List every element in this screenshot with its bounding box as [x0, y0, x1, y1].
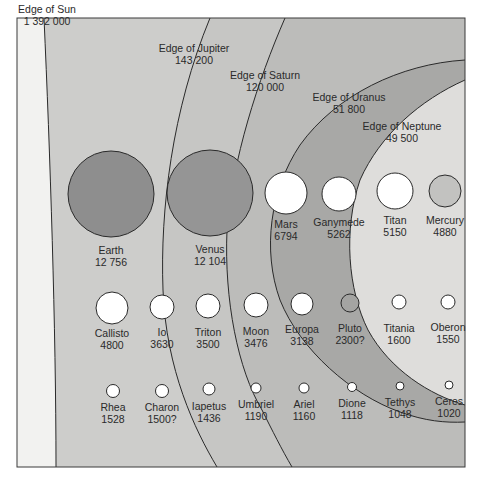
edge-label-value: 120 000 — [246, 81, 284, 93]
body-name: Oberon — [430, 321, 465, 333]
body-diameter: 3500 — [196, 338, 220, 350]
edge-label-title: Edge of Neptune — [363, 120, 442, 132]
ganymede-disk-icon — [322, 177, 356, 211]
body-diameter: 4800 — [100, 339, 124, 351]
body-name: Titan — [384, 214, 407, 226]
body-diameter: 1020 — [437, 407, 461, 419]
body-diameter: 3138 — [290, 335, 314, 347]
edge-label-title: Edge of Sun — [18, 3, 76, 15]
body-diameter: 1436 — [197, 412, 221, 424]
body-name: Earth — [98, 244, 123, 256]
oberon-disk-icon — [441, 295, 455, 309]
body-name: Venus — [195, 243, 224, 255]
size-comparison-diagram: Edge of Sun1 392 000Edge of Jupiter143 2… — [0, 0, 488, 490]
titania-disk-icon — [392, 295, 406, 309]
edge-label-value: 1 392 000 — [24, 15, 71, 27]
body-diameter: 1048 — [388, 408, 412, 420]
body-name: Ganymede — [313, 216, 365, 228]
callisto-disk-icon — [96, 292, 128, 324]
dione-disk-icon — [348, 383, 357, 392]
body-diameter: 1190 — [245, 410, 268, 422]
titan-disk-icon — [377, 173, 413, 209]
edge-label-sun: Edge of Sun1 392 000 — [18, 3, 76, 27]
iapetus-disk-icon — [203, 383, 215, 395]
body-name: Io — [158, 326, 167, 338]
body-name: Triton — [195, 326, 222, 338]
mercury-disk-icon — [429, 175, 461, 207]
tethys-disk-icon — [396, 382, 404, 390]
edge-label-title: Edge of Jupiter — [159, 42, 230, 54]
body-diameter: 12 104 — [194, 255, 226, 267]
body-name: Moon — [243, 325, 269, 337]
body-diameter: 1528 — [101, 413, 125, 425]
body-name: Umbriel — [238, 398, 274, 410]
body-diameter: 3630 — [150, 338, 174, 350]
venus-disk-icon — [167, 150, 253, 236]
io-disk-icon — [150, 295, 174, 319]
body-diameter: 5150 — [383, 226, 407, 238]
body-name: Titania — [383, 322, 414, 334]
moon-disk-icon — [244, 293, 268, 317]
body-diameter: 6794 — [274, 230, 298, 242]
ariel-disk-icon — [299, 383, 309, 393]
body-name: Iapetus — [192, 400, 226, 412]
body-diameter: 12 756 — [95, 256, 127, 268]
body-diameter: 1500? — [147, 413, 176, 425]
ceres-disk-icon — [445, 381, 453, 389]
charon-disk-icon — [156, 385, 169, 398]
earth-disk-icon — [68, 151, 154, 237]
body-diameter: 2300? — [335, 334, 364, 346]
edge-label-value: 143 200 — [175, 54, 213, 66]
body-diameter: 1160 — [293, 410, 316, 422]
body-name: Mars — [274, 218, 297, 230]
body-diameter: 3476 — [244, 337, 268, 349]
body-name: Pluto — [338, 322, 362, 334]
body-name: Tethys — [385, 396, 415, 408]
body-name: Ceres — [435, 395, 463, 407]
edge-label-value: 49 500 — [386, 132, 418, 144]
body-name: Dione — [338, 397, 366, 409]
body-diameter: 1550 — [436, 333, 460, 345]
body-diameter: 4880 — [433, 226, 457, 238]
edge-label-title: Edge of Saturn — [230, 69, 300, 81]
edge-label-value: 51 800 — [333, 103, 365, 115]
pluto-disk-icon — [341, 294, 359, 312]
mars-disk-icon — [265, 172, 307, 214]
body-name: Callisto — [95, 327, 130, 339]
triton-disk-icon — [196, 294, 220, 318]
body-name: Rhea — [100, 401, 125, 413]
body-name: Charon — [145, 401, 180, 413]
body-diameter: 1118 — [341, 409, 363, 421]
body-name: Europa — [285, 323, 319, 335]
body-diameter: 1600 — [387, 334, 411, 346]
umbriel-disk-icon — [251, 383, 261, 393]
body-name: Ariel — [293, 398, 314, 410]
rhea-disk-icon — [107, 385, 120, 398]
europa-disk-icon — [291, 293, 313, 315]
edge-label-title: Edge of Uranus — [313, 91, 386, 103]
body-diameter: 5262 — [327, 228, 351, 240]
body-name: Mercury — [426, 214, 465, 226]
